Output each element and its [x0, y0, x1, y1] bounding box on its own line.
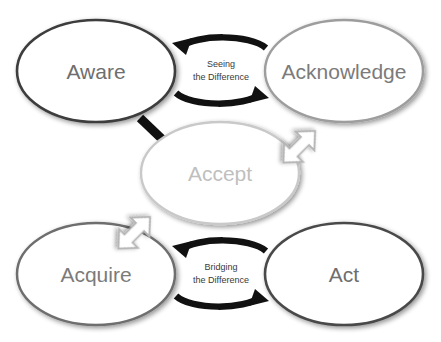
- seeing-upper-curve: [181, 37, 266, 48]
- bridging-right-arrowhead: [249, 289, 269, 306]
- connector-bridging: [172, 240, 269, 306]
- seeing-left-arrowhead: [172, 38, 192, 55]
- connector-seeing-label-line2: the Difference: [193, 72, 249, 82]
- node-acquire-label: Acquire: [60, 263, 131, 286]
- node-acknowledge-label: Acknowledge: [282, 60, 407, 83]
- diagram-svg: Aware Acknowledge Accept Acquire Act See…: [0, 0, 441, 342]
- bridging-left-arrowhead: [172, 241, 192, 258]
- seeing-right-arrowhead: [249, 86, 269, 103]
- connector-bridging-label-line2: the Difference: [193, 275, 249, 285]
- node-act-label: Act: [329, 263, 360, 286]
- seeing-lower-curve: [176, 93, 260, 104]
- bridging-upper-curve: [181, 240, 266, 251]
- node-aware-label: Aware: [66, 60, 125, 83]
- diagram-canvas: Aware Acknowledge Accept Acquire Act See…: [0, 0, 441, 342]
- connector-aware-to-accept: [140, 118, 163, 140]
- connector-seeing: [172, 37, 269, 103]
- node-accept-label: Accept: [188, 162, 252, 185]
- bridging-lower-curve: [176, 296, 260, 307]
- connector-seeing-label-line1: Seeing: [207, 59, 235, 69]
- connector-bridging-label-line1: Bridging: [204, 262, 237, 272]
